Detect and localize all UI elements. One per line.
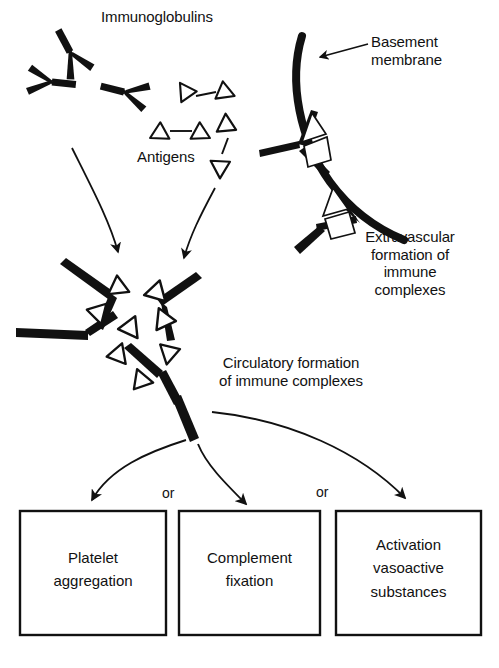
diagram-page: Immunoglobulins Antigens Basement membra… bbox=[0, 0, 499, 668]
antigen-icon bbox=[213, 80, 234, 99]
arrow-to-complement-box bbox=[198, 444, 246, 504]
antigen-icon bbox=[180, 82, 197, 102]
arrow-ag-to-complex bbox=[184, 188, 215, 258]
arrow-to-vasoactive-box bbox=[212, 412, 405, 498]
outcome-label-platelet-aggregation: Platelet aggregation bbox=[20, 546, 166, 593]
immunoglobulin-icon bbox=[97, 72, 152, 113]
basement-membrane-leader bbox=[320, 44, 368, 57]
antigen-icon bbox=[84, 300, 106, 325]
immunoglobulin-stem bbox=[172, 395, 199, 442]
arrow-ig-to-complex bbox=[72, 148, 118, 252]
antigen-icon bbox=[117, 316, 138, 340]
outcome-label-activation-vasoactive-substances: Activation vasoactive substances bbox=[336, 533, 481, 603]
immunoglobulin-arm bbox=[60, 258, 114, 299]
immunoglobulin-arm bbox=[124, 343, 163, 378]
label-immunoglobulins: Immunoglobulins bbox=[101, 8, 213, 26]
antigen-icon bbox=[150, 122, 170, 139]
circulatory-immune-complex bbox=[16, 258, 202, 442]
antigen-icon bbox=[190, 122, 210, 139]
label-or-2: or bbox=[316, 484, 328, 501]
antigen-icon bbox=[217, 114, 241, 139]
label-basement-membrane: Basement membrane bbox=[371, 33, 442, 68]
outcome-label-complement-fixation: Complement fixation bbox=[179, 546, 320, 593]
immunoglobulin-arm bbox=[16, 328, 88, 340]
antigen-icon bbox=[160, 339, 183, 364]
trapped-antigens-upper bbox=[302, 113, 331, 167]
label-antigens: Antigens bbox=[137, 148, 195, 166]
antigen-icon bbox=[126, 369, 153, 396]
basement-membrane-group bbox=[259, 36, 404, 254]
label-or-1: or bbox=[162, 485, 174, 502]
antigen-icon bbox=[107, 274, 130, 294]
antigen-icon bbox=[211, 153, 235, 178]
immunoglobulin-icon bbox=[44, 23, 96, 83]
label-extravascular-formation: Extravascular formation of immune comple… bbox=[330, 228, 490, 299]
antigen-icon bbox=[105, 343, 126, 367]
label-circulatory-formation: Circulatory formation of immune complexe… bbox=[192, 354, 390, 389]
free-immunoglobulins-group bbox=[25, 23, 152, 113]
